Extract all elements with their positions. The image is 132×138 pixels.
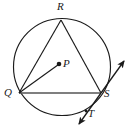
center-point-P-dot: [57, 62, 62, 67]
vertex-label-r: R: [57, 1, 64, 12]
segment-QR: [19, 20, 61, 93]
point-T-dot: [85, 110, 88, 113]
geometry-canvas: [0, 0, 132, 138]
vertex-label-s: S: [104, 88, 110, 99]
center-label-p: P: [63, 58, 70, 69]
segment-QP: [19, 65, 58, 93]
vertex-label-q: Q: [4, 87, 12, 98]
geometry-figure: R Q S P T: [0, 0, 132, 138]
tangent-point-label-t: T: [88, 108, 94, 119]
